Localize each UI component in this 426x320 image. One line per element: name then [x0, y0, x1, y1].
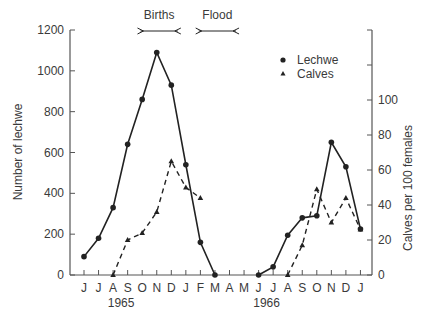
- calves-point: [154, 209, 160, 214]
- births-label: Births: [144, 8, 175, 22]
- x-tick-label: O: [138, 281, 147, 295]
- lechwe-point: [125, 142, 131, 148]
- x-tick-label: A: [109, 281, 117, 295]
- lechwe-point: [329, 139, 335, 145]
- calves-point: [169, 158, 175, 163]
- y-tick-label-left: 0: [57, 268, 64, 282]
- lechwe-line: [259, 142, 361, 275]
- x-tick-label: D: [342, 281, 351, 295]
- legend-label-lechwe: Lechwe: [297, 53, 339, 67]
- x-tick-label: O: [312, 281, 321, 295]
- lechwe-point: [81, 254, 87, 260]
- flood-label: Flood: [202, 8, 232, 22]
- y-tick-label-left: 1200: [37, 23, 64, 37]
- legend: LechweCalves: [280, 53, 338, 81]
- y-tick-label-left: 400: [44, 186, 64, 200]
- lechwe-point: [299, 215, 305, 221]
- lechwe-point: [169, 82, 175, 88]
- lechwe-point: [270, 264, 276, 270]
- legend-circle-icon: [280, 57, 285, 62]
- y-axis-label-right: Calves per 100 females: [401, 125, 415, 251]
- legend-triangle-icon: [281, 71, 286, 76]
- calves-line: [113, 161, 200, 275]
- y-tick-label-left: 800: [44, 105, 64, 119]
- x-tick-label: S: [298, 281, 306, 295]
- calves-line: [288, 189, 361, 275]
- data-series: [81, 50, 363, 278]
- x-tick-label: J: [183, 281, 189, 295]
- lechwe-line: [84, 52, 215, 275]
- y-tick-label-right: 0: [378, 268, 385, 282]
- lechwe-point: [314, 213, 320, 219]
- x-tick-label: J: [256, 281, 262, 295]
- y-tick-label-right: 60: [378, 163, 392, 177]
- y-tick-label-right: 20: [378, 233, 392, 247]
- x-tick-label: M: [210, 281, 220, 295]
- calves-point: [183, 185, 189, 190]
- legend-label-calves: Calves: [297, 67, 334, 81]
- x-tick-label: M: [239, 281, 249, 295]
- lechwe-point: [256, 272, 262, 278]
- period-annotations: BirthsFlood: [137, 8, 239, 34]
- lechwe-point: [198, 240, 204, 246]
- calves-point: [299, 242, 305, 247]
- x-tick-label: J: [81, 281, 87, 295]
- calves-point: [198, 195, 204, 200]
- calves-point: [343, 195, 349, 200]
- y-tick-label-left: 1000: [37, 64, 64, 78]
- y-tick-label-right: 80: [378, 128, 392, 142]
- lechwe-calves-chart: 020040060080010001200020406080100JJASOND…: [0, 0, 426, 320]
- lechwe-point: [96, 235, 102, 241]
- calves-point: [314, 186, 320, 191]
- lechwe-point: [110, 205, 116, 211]
- year-label: 1966: [253, 296, 280, 310]
- lechwe-point: [285, 232, 291, 238]
- y-tick-label-right: 40: [378, 198, 392, 212]
- y-tick-label-right: 100: [378, 93, 398, 107]
- lechwe-point: [154, 50, 160, 56]
- x-tick-label: J: [357, 281, 363, 295]
- x-tick-label: N: [327, 281, 336, 295]
- lechwe-point: [212, 272, 218, 278]
- year-label: 1965: [108, 296, 135, 310]
- y-tick-label-left: 200: [44, 227, 64, 241]
- x-tick-label: D: [167, 281, 176, 295]
- y-axis-label-left: Number of lechwe: [11, 103, 25, 200]
- x-tick-label: S: [124, 281, 132, 295]
- lechwe-point: [343, 164, 349, 170]
- x-tick-label: F: [197, 281, 204, 295]
- lechwe-point: [139, 97, 145, 103]
- y-tick-label-left: 600: [44, 146, 64, 160]
- x-tick-label: J: [270, 281, 276, 295]
- lechwe-point: [183, 162, 189, 168]
- x-tick-label: A: [225, 281, 233, 295]
- x-tick-label: J: [96, 281, 102, 295]
- x-tick-label: N: [152, 281, 161, 295]
- x-tick-label: A: [284, 281, 292, 295]
